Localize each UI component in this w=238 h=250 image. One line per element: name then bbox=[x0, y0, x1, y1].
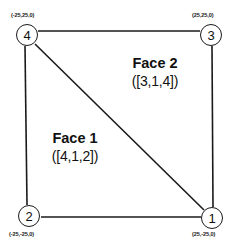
face-2-vertices: ([3,1,4]) bbox=[110, 72, 200, 90]
edge-right bbox=[212, 46, 213, 207]
edge-left bbox=[25, 46, 27, 205]
node-1-label: 1 bbox=[208, 211, 215, 224]
face-1-label: Face 1 ([4,1,2]) bbox=[30, 130, 120, 165]
face-2-label: Face 2 ([3,1,4]) bbox=[110, 55, 200, 90]
node-3-label: 3 bbox=[207, 28, 214, 41]
face-1-title: Face 1 bbox=[30, 130, 120, 147]
node-3-coordinate: (25,25,0) bbox=[192, 12, 214, 18]
node-4-label: 4 bbox=[23, 28, 30, 41]
node-4[interactable]: 4 bbox=[16, 24, 38, 46]
node-2[interactable]: 2 bbox=[18, 205, 40, 227]
node-3[interactable]: 3 bbox=[200, 24, 222, 46]
diagram-canvas: 4 3 2 1 (-25,25,0) (25,25,0) (-25,-25,0)… bbox=[0, 0, 238, 250]
node-2-coordinate: (-25,-25,0) bbox=[9, 231, 34, 237]
node-2-label: 2 bbox=[25, 209, 32, 222]
node-1-coordinate: (25,-25,0) bbox=[192, 231, 215, 237]
face-2-title: Face 2 bbox=[110, 55, 200, 72]
node-4-coordinate: (-25,25,0) bbox=[11, 12, 34, 18]
face-1-vertices: ([4,1,2]) bbox=[30, 147, 120, 165]
node-1[interactable]: 1 bbox=[201, 207, 223, 229]
